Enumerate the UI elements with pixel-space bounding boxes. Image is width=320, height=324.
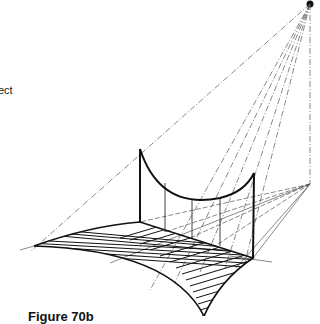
- figure-caption: Figure 70b: [28, 309, 94, 324]
